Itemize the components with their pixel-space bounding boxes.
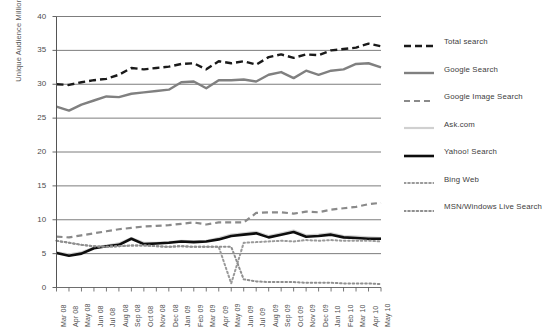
legend-label: MSN/Windows Live Search (444, 202, 542, 211)
x-tick-label: Mar 08 (60, 304, 67, 326)
x-tick-label: Feb 09 (197, 304, 204, 326)
x-tick-label: May 09 (234, 303, 241, 327)
x-tick-label: Dec 08 (172, 304, 179, 327)
x-tick-label: Jan 10 (334, 305, 341, 327)
x-tick-label: Dec 09 (322, 304, 329, 327)
x-tick-label: Sep 08 (134, 304, 141, 327)
legend-item[interactable]: Google Image Search (404, 83, 553, 111)
x-tick-label: Jan 09 (184, 305, 191, 327)
series-lines (57, 44, 382, 285)
x-tick-label: May 10 (384, 303, 391, 327)
legend-swatch (404, 92, 434, 102)
series-line (57, 44, 382, 85)
x-tick-label: Jul 08 (109, 307, 116, 326)
legend-item[interactable]: Google Search (404, 56, 553, 84)
legend-item[interactable]: Total search (404, 28, 553, 56)
legend-swatch (404, 202, 434, 212)
y-tick-label: 5 (23, 249, 47, 258)
axis-ticks (53, 17, 382, 292)
x-tick-label: Feb 10 (347, 304, 354, 326)
y-tick-label: 30 (23, 79, 47, 88)
y-tick-label: 25 (23, 113, 47, 122)
x-tick-label: Aug 08 (122, 304, 129, 327)
x-tick-label: Apr 10 (372, 305, 379, 326)
x-tick-label: Apr 08 (72, 305, 79, 326)
legend-item[interactable]: MSN/Windows Live Search (404, 193, 553, 221)
x-tick-label: Jun 08 (97, 305, 104, 327)
legend-label: Yahoo! Search (444, 147, 497, 156)
legend-item[interactable]: Bing Web (404, 166, 553, 194)
y-tick-label: 0 (23, 283, 47, 292)
x-tick-label: Oct 09 (297, 305, 304, 326)
y-tick-label: 20 (23, 147, 47, 156)
x-tick-label: Mar 09 (209, 304, 216, 326)
x-tick-label: Nov 08 (159, 304, 166, 327)
legend: Total searchGoogle SearchGoogle Image Se… (404, 28, 553, 221)
x-tick-label: Aug 09 (272, 304, 279, 327)
legend-swatch (404, 119, 434, 129)
legend-item[interactable]: Yahoo! Search (404, 138, 553, 166)
x-tick-label: Jul 09 (259, 307, 266, 326)
legend-item[interactable]: Ask.com (404, 111, 553, 139)
y-tick-label: 40 (23, 12, 47, 21)
legend-swatch (404, 147, 434, 157)
legend-label: Ask.com (444, 120, 475, 129)
y-tick-label: 10 (23, 215, 47, 224)
series-line (57, 63, 382, 110)
x-tick-label: Sep 09 (284, 304, 291, 327)
legend-swatch (404, 174, 434, 184)
x-tick-label: Jun 09 (247, 305, 254, 327)
x-tick-label: Apr 09 (222, 305, 229, 326)
legend-swatch (404, 64, 434, 74)
series-line (57, 232, 382, 256)
x-tick-label: Oct 08 (147, 305, 154, 326)
y-tick-label: 35 (23, 45, 47, 54)
legend-label: Google Image Search (444, 92, 523, 101)
legend-label: Google Search (444, 65, 498, 74)
y-tick-label: 15 (23, 181, 47, 190)
line-chart: Unique Audience Millions 403530252015105… (0, 0, 553, 329)
legend-label: Bing Web (444, 175, 479, 184)
x-tick-label: Nov 09 (309, 304, 316, 327)
legend-label: Total search (444, 37, 488, 46)
x-tick-label: May 08 (84, 303, 91, 327)
x-tick-label: Mar 10 (359, 304, 366, 326)
legend-swatch (404, 37, 434, 47)
